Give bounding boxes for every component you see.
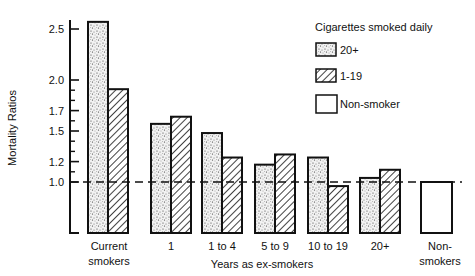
x-category-label: Non- <box>428 240 452 252</box>
y-tick-label: 1.7 <box>49 105 64 117</box>
x-category-label: 20+ <box>371 240 390 252</box>
bar-20- <box>202 133 222 233</box>
bar-20- <box>308 158 328 233</box>
legend-label: Non-smoker <box>340 98 400 110</box>
bar-1-19 <box>328 186 348 233</box>
mortality-ratio-bar-chart: 1.01.21.51.72.02.5 Currentsmokers11 to 4… <box>0 0 475 276</box>
x-category-label: 1 <box>168 240 174 252</box>
x-category-label: 10 to 19 <box>308 240 348 252</box>
bar-20- <box>151 124 171 233</box>
legend-label: 20+ <box>340 44 359 56</box>
bar-20- <box>360 178 380 233</box>
x-category-label: 5 to 9 <box>261 240 289 252</box>
y-axis: 1.01.21.51.72.02.5 <box>49 20 79 233</box>
bar-20- <box>255 165 275 233</box>
y-tick-label: 1.0 <box>49 176 64 188</box>
y-tick-label: 1.5 <box>49 125 64 137</box>
y-tick-label: 2.0 <box>49 74 64 86</box>
y-tick-label: 1.2 <box>49 156 64 168</box>
bar-1-19 <box>380 170 400 233</box>
bar-1-19 <box>222 158 242 233</box>
legend: Cigarettes smoked daily20+1-19Non-smoker <box>315 21 433 113</box>
legend-swatch-empty <box>316 95 337 113</box>
y-tick-label: 2.5 <box>49 23 64 35</box>
legend-swatch-hatch <box>316 69 336 82</box>
x-category-label: Current <box>91 240 128 252</box>
bar-20- <box>88 22 108 233</box>
bar-1-19 <box>275 154 295 233</box>
y-axis-label: Mortality Ratios <box>6 90 18 166</box>
legend-label: 1-19 <box>340 70 362 82</box>
bars <box>88 22 452 233</box>
legend-title: Cigarettes smoked daily <box>315 21 433 33</box>
bar-1-19 <box>108 89 128 233</box>
x-category-label: smokers <box>419 255 461 267</box>
bar-non-smoker <box>421 182 452 233</box>
x-category-label: smokers <box>88 255 130 267</box>
bar-1-19 <box>171 117 191 233</box>
x-category-label: 1 to 4 <box>208 240 236 252</box>
legend-swatch-stipple <box>316 43 336 56</box>
x-axis-label: Years as ex-smokers <box>211 258 314 270</box>
